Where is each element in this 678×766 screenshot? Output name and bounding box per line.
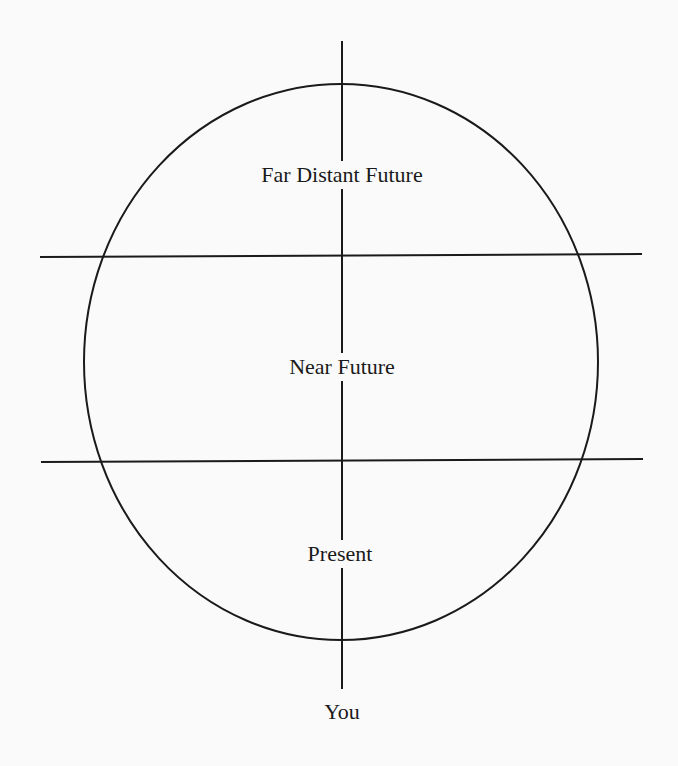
far-distant-future-label: Far Distant Future bbox=[257, 161, 426, 189]
present-label: Present bbox=[304, 540, 377, 568]
you-label: You bbox=[320, 698, 364, 726]
near-future-label: Near Future bbox=[285, 353, 399, 381]
time-horizon-diagram bbox=[0, 0, 678, 766]
